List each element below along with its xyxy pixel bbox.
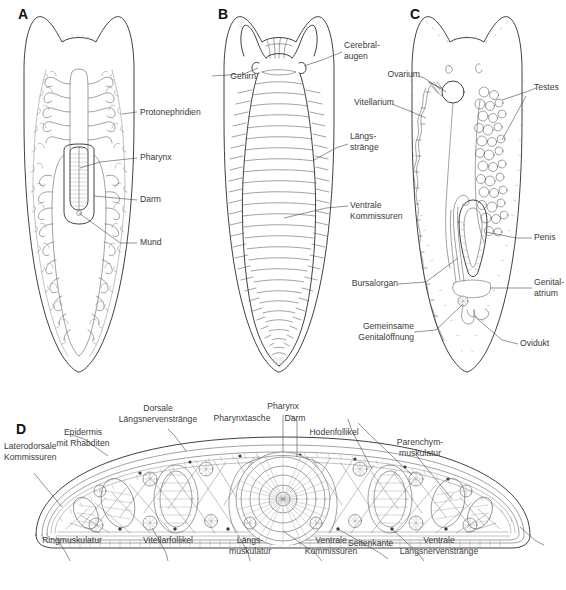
panel-a-drawing: [0, 0, 200, 385]
label-ventrale-laengsnervenstraenge: Ventrale Längsnervenstränge: [374, 535, 504, 556]
label-pharynx-d: Pharynx: [252, 401, 314, 412]
label-vitellarium: Vitellarium: [334, 97, 394, 108]
label-darm-d: Darm: [258, 413, 332, 424]
figure-plate: A: [0, 0, 566, 590]
panel-d-letter: D: [16, 421, 26, 437]
label-mund: Mund: [140, 237, 162, 248]
label-hodenfollikel: Hodenfollikel: [278, 427, 390, 438]
panel-d: D: [0, 395, 566, 585]
label-penis: Penis: [534, 232, 556, 243]
label-vitellarfollikel: Vitellarfollikel: [118, 535, 218, 546]
label-genitalatrium: Genital- atrium: [534, 277, 564, 298]
label-laengsmuskulatur: Längs- muskulatur: [210, 535, 290, 556]
label-pharynx-a: Pharynx: [140, 152, 172, 163]
label-darm-a: Darm: [140, 194, 161, 205]
label-parenchymmuskulatur: Parenchym- muskulatur: [378, 437, 462, 458]
label-gemeinsame-genitaloeffnung: Gemeinsame Genitalöffnung: [314, 321, 414, 342]
label-cerebralaugen: Cerebral- augen: [344, 40, 380, 61]
label-bursalorgan: Bursalorgan: [334, 278, 398, 289]
label-ovarium: Ovarium: [376, 69, 420, 80]
panel-a: A: [0, 0, 200, 385]
label-laengsstraenge: Längs- stränge: [350, 131, 379, 152]
panel-b-letter: B: [218, 6, 228, 22]
label-ovidukt: Ovidukt: [520, 338, 549, 349]
label-ringmuskulatur: Ringmuskulatur: [20, 535, 124, 546]
label-testes: Testes: [534, 82, 559, 93]
label-laterodorsale-kommissuren: Laterodorsale Kommissuren: [4, 441, 57, 462]
panel-c: C: [376, 0, 566, 385]
label-ventrale-kommissuren-d: Ventrale Kommissuren: [284, 535, 378, 556]
panel-a-letter: A: [18, 6, 28, 22]
label-gehirn: Gehirn: [196, 71, 256, 82]
panel-c-letter: C: [410, 6, 420, 22]
label-protonephridien: Protonephridien: [140, 107, 201, 118]
